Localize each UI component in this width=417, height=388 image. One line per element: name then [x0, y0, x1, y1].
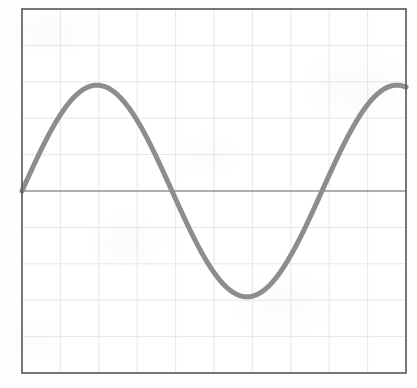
figure-container: [0, 0, 417, 388]
plot-canvas: [0, 0, 417, 388]
